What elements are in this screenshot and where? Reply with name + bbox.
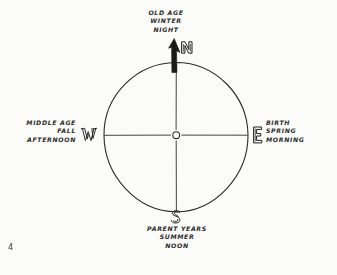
south-label-line-3: NOON — [132, 242, 222, 250]
south-label-line-1: PARENT YEARS — [132, 225, 222, 233]
south-label-group: PARENT YEARS SUMMER NOON — [132, 225, 222, 250]
west-label-line-3: AFTERNOON — [8, 136, 76, 144]
north-label-group: OLD AGE WINTER NIGHT — [128, 9, 204, 34]
east-label-line-1: BIRTH — [266, 119, 334, 127]
north-label-line-1: OLD AGE — [128, 9, 204, 17]
compass-diagram: OLD AGE WINTER NIGHT PARENT YEARS SUMMER… — [0, 0, 337, 275]
page-number: 4 — [8, 243, 13, 252]
cardinal-letter-w — [81, 128, 96, 140]
cardinal-letter-n — [182, 42, 192, 53]
east-label-line-3: MORNING — [266, 136, 334, 144]
north-arrow-icon — [169, 39, 180, 73]
west-label-line-1: MIDDLE AGE — [8, 119, 76, 127]
cardinal-letter-s — [171, 211, 179, 223]
west-label-line-2: FALL — [8, 127, 76, 135]
east-label-line-2: SPRING — [266, 127, 334, 135]
north-label-line-3: NIGHT — [128, 26, 204, 34]
cardinal-letter-e — [254, 127, 262, 143]
north-label-line-2: WINTER — [128, 17, 204, 25]
center-marker — [173, 132, 180, 139]
west-label-group: MIDDLE AGE FALL AFTERNOON — [8, 119, 76, 144]
south-label-line-2: SUMMER — [132, 233, 222, 241]
east-label-group: BIRTH SPRING MORNING — [266, 119, 334, 144]
